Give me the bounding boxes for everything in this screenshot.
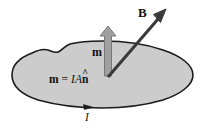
- magnetic-dipole-diagram: B m m=IA^n I: [0, 0, 207, 128]
- circumflex-accent-icon: ^: [82, 68, 88, 78]
- moment-vector-label: m: [92, 46, 102, 58]
- moment-equation-area: A: [75, 73, 82, 85]
- moment-equation-equals: =: [62, 73, 69, 85]
- moment-equation: m=IA^n: [49, 74, 88, 86]
- moment-equation-normal-unit-vector: ^n: [82, 74, 88, 86]
- diagram-canvas: [0, 0, 207, 128]
- current-loop-surface: [12, 41, 193, 108]
- field-vector-label: B: [138, 6, 147, 19]
- current-label: I: [85, 112, 89, 124]
- moment-equation-lhs: m: [49, 73, 59, 85]
